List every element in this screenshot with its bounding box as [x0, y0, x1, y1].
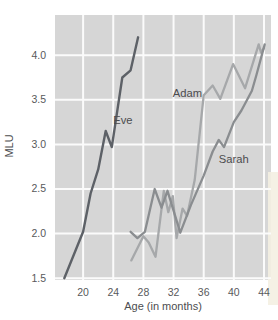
- mlu-figure: MLU Age (in months) AdamSarahEve20242832…: [0, 0, 278, 320]
- y-tick-label: 2.0: [31, 227, 46, 239]
- series-label-adam: Adam: [173, 87, 202, 99]
- y-tick-label: 3.5: [31, 93, 46, 105]
- y-tick-label: 3.0: [31, 138, 46, 150]
- y-tick-label: 1.5: [31, 272, 46, 284]
- x-tick-label: 36: [198, 286, 210, 298]
- series-label-eve: Eve: [113, 114, 132, 126]
- x-tick-label: 24: [107, 286, 119, 298]
- y-tick-label: 4.0: [31, 49, 46, 61]
- y-tick-label: 2.5: [31, 182, 46, 194]
- x-tick-label: 28: [138, 286, 150, 298]
- x-axis-title: Age (in months): [124, 300, 202, 312]
- mlu-chart: MLU Age (in months) AdamSarahEve20242832…: [0, 0, 278, 320]
- x-tick-label: 44: [258, 286, 270, 298]
- x-tick-label: 32: [168, 286, 180, 298]
- y-axis-title: MLU: [3, 134, 15, 157]
- x-tick-label: 40: [228, 286, 240, 298]
- series-label-sarah: Sarah: [219, 153, 249, 165]
- x-tick-label: 20: [77, 286, 89, 298]
